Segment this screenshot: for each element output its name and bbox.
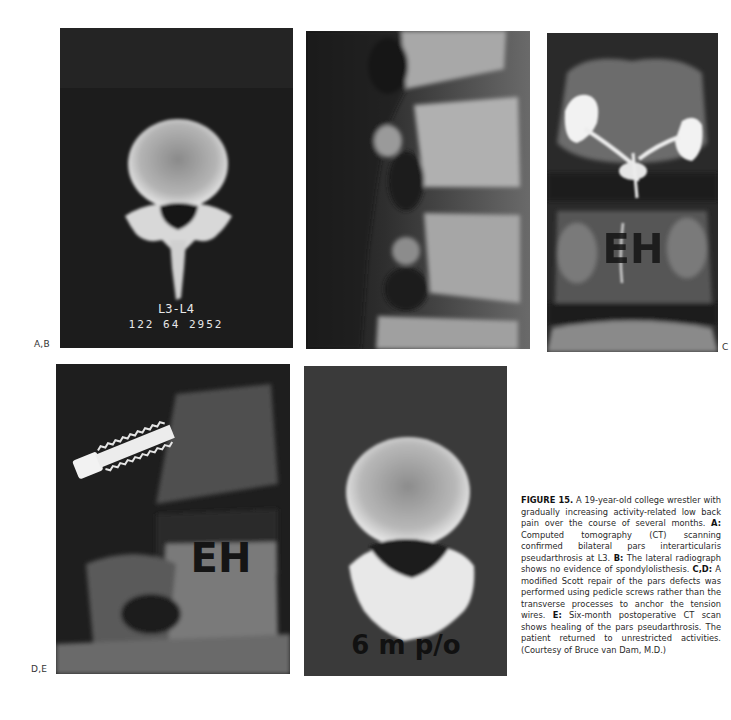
panel-label-c: C (722, 342, 728, 352)
caption-a-label: A: (711, 518, 721, 528)
figure-panel-b-lateral-radiograph (306, 31, 530, 349)
figure-panel-e-postop-ct: 6 m p/o (304, 366, 507, 676)
lateral-radiograph-image (306, 31, 530, 349)
ct-id-label: 122 64 2952 (129, 318, 224, 331)
lateral-screw-radiograph-image: EH (56, 364, 290, 674)
ct-level-label: L3-L4 (158, 302, 194, 316)
figure-panel-c-ap-radiograph: EH (547, 33, 718, 352)
radiograph-marker-label: EH (603, 226, 664, 272)
figure-panel-a-ct-axial: L3-L4 122 64 2952 (60, 28, 293, 348)
ap-radiograph-image: EH (547, 33, 718, 352)
caption-cd-label: C,D: (693, 564, 712, 574)
panel-label-de: D,E (31, 664, 47, 674)
ct-axial-image: L3-L4 122 64 2952 (60, 28, 293, 348)
caption-e-label: E: (553, 610, 562, 620)
caption-figure-number: FIGURE 15. (521, 495, 573, 505)
radiograph-marker-label: EH (191, 535, 252, 581)
figure-panel-d-lateral-screw: EH (56, 364, 290, 674)
postop-ct-image: 6 m p/o (304, 366, 507, 676)
figure-caption: FIGURE 15. A 19-year-old college wrestle… (521, 495, 721, 656)
ct-postop-label: 6 m p/o (351, 630, 460, 660)
panel-label-ab: A,B (34, 339, 50, 349)
caption-b-label: B: (614, 553, 624, 563)
